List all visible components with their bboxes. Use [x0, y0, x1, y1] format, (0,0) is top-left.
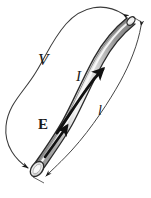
label-current: I — [76, 69, 81, 84]
length-dimension-line — [46, 26, 141, 176]
label-voltage: V — [38, 51, 48, 68]
label-electric-field: E — [38, 117, 48, 132]
voltage-arc — [6, 7, 123, 168]
physics-diagram — [0, 0, 151, 198]
label-length: l — [98, 104, 102, 118]
figure-container: V I E l — [0, 0, 151, 198]
